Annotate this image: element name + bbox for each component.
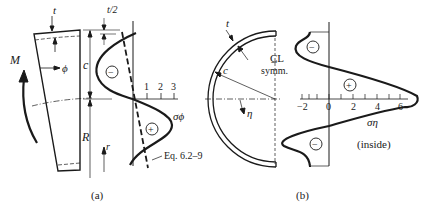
beam-section-outline	[34, 30, 80, 171]
tick-label-2: 2	[158, 81, 163, 92]
t-half-label: t/2	[107, 4, 118, 15]
symm-label: symm.	[261, 65, 288, 76]
eta-arrowhead	[240, 108, 245, 114]
minus-sign-b-top: −	[309, 42, 315, 53]
t-arrowhead-bottom	[53, 38, 57, 44]
caption-a: (a)	[91, 189, 104, 202]
M-label: M	[9, 53, 21, 67]
beam-inner-bottom-dashed	[58, 163, 80, 165]
eta-label: η	[247, 107, 252, 119]
r-label: r	[106, 141, 110, 152]
phi-label: ϕ	[62, 62, 68, 74]
moment-arrow	[23, 78, 37, 143]
t-half-arrowhead-a	[102, 25, 106, 30]
eta-ticks	[302, 94, 400, 99]
tick-label-0: 0	[326, 101, 331, 112]
radius-line	[216, 73, 275, 99]
centerline-symbol: C̲L	[270, 52, 284, 64]
tick-label-1: 1	[144, 81, 149, 92]
eq-leader	[152, 156, 162, 160]
radius-arrowhead	[215, 72, 221, 77]
R-label: R	[81, 130, 90, 144]
tick-label-4: 4	[375, 101, 380, 112]
minus-sign-b-bottom: −	[312, 139, 318, 150]
equation-label: Eq. 6.2–9	[164, 150, 203, 161]
panel-b-text: t c C̲L symm. η −2 0 2 4 6 ση (inside) −…	[223, 17, 403, 202]
beam-inner-top-dashed	[35, 36, 80, 40]
sigma-phi-label: σϕ	[173, 110, 184, 122]
minus-sign-a: −	[108, 67, 114, 78]
tick-label-6: 6	[398, 101, 403, 112]
t-half-arrowhead-b	[102, 34, 106, 39]
t-label-a: t	[53, 4, 57, 16]
t-label-b: t	[226, 17, 230, 29]
tick-label-2b: 2	[351, 101, 356, 112]
inside-label: (inside)	[357, 138, 391, 151]
sigma-eta-label: ση	[367, 116, 378, 128]
figure-canvas: t t/2 M ϕ c R r 1 2 3 σϕ Eq. 6.2–9 − + (…	[0, 0, 431, 207]
moment-arrowhead	[19, 70, 28, 82]
t-arrowhead-top	[50, 26, 54, 31]
panel-a	[19, 16, 178, 178]
plus-sign-b: +	[346, 80, 352, 91]
plus-sign-a: +	[148, 124, 154, 135]
tick-label-3: 3	[171, 81, 176, 92]
c-arrowhead-bottom	[88, 92, 92, 98]
c-label-a: c	[83, 58, 89, 72]
phi-arrowhead	[54, 66, 60, 70]
c-label-b: c	[223, 64, 228, 76]
tick-label-neg2: −2	[297, 101, 308, 112]
caption-b: (b)	[296, 189, 309, 202]
c-arrowhead-top	[88, 31, 92, 37]
R-arrowhead-top	[88, 100, 92, 106]
